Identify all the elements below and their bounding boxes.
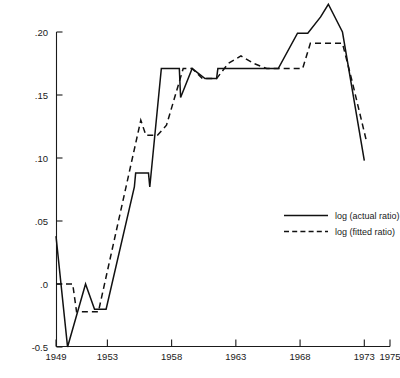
y-tick-label: .05 [35, 216, 48, 227]
x-tick-label: 1953 [97, 351, 118, 362]
chart-container: .20.15.10.05.0-0.5 194919531958196319681… [0, 0, 400, 378]
legend-label-fitted-ratio: log (fitted ratio) [335, 227, 395, 237]
y-axis: .20.15.10.05.0-0.5 [32, 27, 63, 353]
y-axis-ticks [57, 32, 63, 347]
legend-label-actual-ratio: log (actual ratio) [335, 211, 400, 221]
y-axis-tick-labels: .20.15.10.05.0-0.5 [32, 27, 48, 353]
legend-item-actual-ratio: log (actual ratio) [284, 211, 400, 221]
y-tick-label: .15 [35, 90, 48, 101]
x-tick-label: 1968 [290, 351, 311, 362]
x-tick-label: 1975 [379, 351, 400, 362]
legend-item-fitted-ratio: log (fitted ratio) [284, 227, 395, 237]
line-chart-svg: .20.15.10.05.0-0.5 194919531958196319681… [0, 0, 400, 378]
x-tick-label: 1963 [225, 351, 246, 362]
x-axis-tick-labels: 1949195319581963196819731975 [45, 351, 400, 362]
x-tick-label: 1958 [161, 351, 182, 362]
y-tick-label: .0 [40, 279, 48, 290]
x-axis-ticks [56, 340, 390, 347]
x-tick-label: 1949 [45, 351, 66, 362]
y-tick-label: .20 [35, 27, 48, 38]
series-line-fitted-ratio [56, 43, 367, 311]
y-tick-label: .10 [35, 153, 48, 164]
x-tick-label: 1973 [354, 351, 375, 362]
legend: log (actual ratio) log (fitted ratio) [284, 211, 400, 237]
x-axis: 1949195319581963196819731975 [45, 340, 400, 363]
